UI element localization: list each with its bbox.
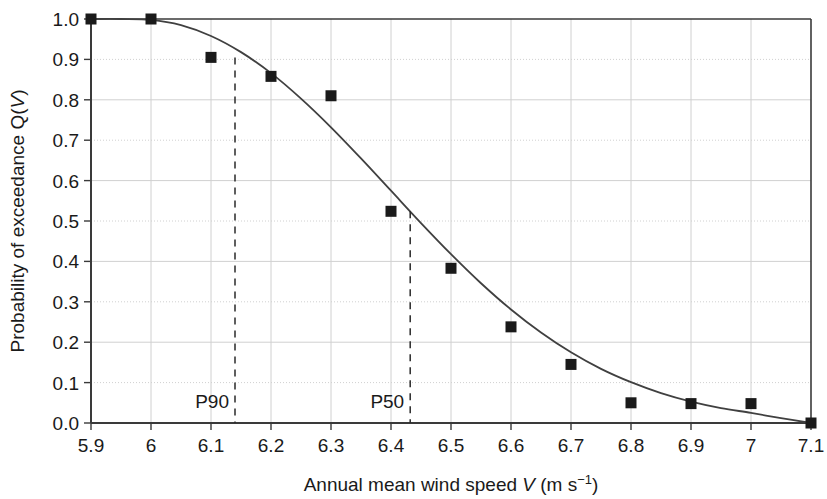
x-tick-label: 7 (746, 435, 757, 456)
annotation-label-p90: P90 (195, 391, 229, 412)
x-tick-label: 6.6 (498, 435, 524, 456)
y-tick-label: 0.8 (53, 90, 79, 111)
data-point-marker (446, 263, 457, 274)
x-tick-label: 6 (146, 435, 157, 456)
y-tick-label: 0.1 (53, 373, 79, 394)
y-tick-label: 0.9 (53, 49, 79, 70)
annotation-label-p50: P50 (370, 391, 404, 412)
data-point-marker (146, 14, 157, 25)
x-tick-label: 7.1 (798, 435, 824, 456)
data-point-marker (626, 397, 637, 408)
y-axis-tick-labels: 0.00.10.20.30.40.50.60.70.80.91.0 (53, 9, 80, 434)
y-tick-label: 0.3 (53, 292, 79, 313)
x-tick-label: 6.3 (318, 435, 344, 456)
data-point-marker (566, 359, 577, 370)
y-tick-label: 1.0 (53, 9, 79, 30)
x-axis-tick-labels: 5.966.16.26.36.46.56.66.76.86.977.1 (78, 435, 824, 456)
y-tick-label: 0.5 (53, 211, 79, 232)
x-tick-label: 6.1 (198, 435, 224, 456)
y-tick-label: 0.4 (53, 251, 80, 272)
y-tick-label: 0.2 (53, 332, 79, 353)
data-point-marker (86, 14, 97, 25)
data-point-marker (686, 398, 697, 409)
y-axis-title: Probability of exceedance Q(V) (7, 90, 28, 353)
x-tick-label: 6.7 (558, 435, 584, 456)
data-point-marker (746, 398, 757, 409)
data-point-marker (506, 321, 517, 332)
data-point-marker (386, 206, 397, 217)
x-axis-title: Annual mean wind speed V (m s−1) (304, 472, 599, 496)
y-tick-label: 0.6 (53, 171, 79, 192)
data-point-marker (206, 52, 217, 63)
x-tick-label: 6.4 (378, 435, 405, 456)
y-tick-label: 0.0 (53, 413, 79, 434)
x-tick-label: 6.8 (618, 435, 644, 456)
chart-figure: P90P50 5.966.16.26.36.46.56.66.76.86.977… (0, 0, 827, 499)
y-tick-label: 0.7 (53, 130, 79, 151)
data-point-marker (326, 90, 337, 101)
data-point-marker (806, 418, 817, 429)
x-tick-label: 6.9 (678, 435, 704, 456)
y-axis-ticks (84, 19, 91, 423)
x-tick-label: 5.9 (78, 435, 104, 456)
data-point-marker (266, 71, 277, 82)
x-axis-ticks (91, 423, 811, 430)
x-tick-label: 6.5 (438, 435, 464, 456)
x-tick-label: 6.2 (258, 435, 284, 456)
exceedance-probability-chart: P90P50 5.966.16.26.36.46.56.66.76.86.977… (0, 0, 827, 499)
